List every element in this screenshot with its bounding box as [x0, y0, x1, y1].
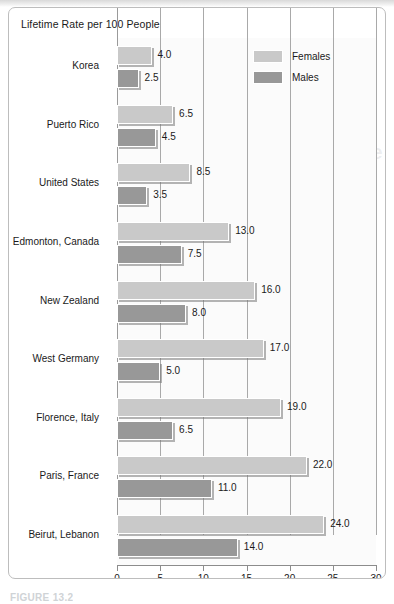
category-label-0: Korea — [72, 60, 99, 71]
x-tick-label-15: 15 — [241, 573, 252, 579]
chart-figure-frame: linical and Developm an Kids “Catch” Dep… — [8, 7, 386, 579]
category-label-3: Edmonton, Canada — [13, 236, 99, 247]
figure-caption: FIGURE 13.2 — [10, 592, 73, 604]
figure-page: linical and Developm an Kids “Catch” Dep… — [0, 0, 394, 604]
page-top-bleed — [0, 0, 394, 7]
category-label-8: Beirut, Lebanon — [28, 529, 99, 540]
category-label-6: Florence, Italy — [36, 412, 99, 423]
bar-males-5[interactable] — [117, 362, 160, 381]
bar-females-7[interactable] — [117, 456, 307, 475]
x-tick-10 — [203, 566, 204, 571]
bar-males-1[interactable] — [117, 128, 156, 147]
legend-label-females: Females — [292, 51, 330, 62]
bar-value-males-7: 11.0 — [218, 482, 237, 493]
category-label-4: New Zealand — [40, 295, 99, 306]
bar-value-females-5: 17.0 — [270, 342, 289, 353]
x-tick-label-25: 25 — [327, 573, 338, 579]
bar-value-females-8: 24.0 — [330, 518, 349, 529]
x-tick-label-20: 20 — [284, 573, 295, 579]
bar-females-5[interactable] — [117, 339, 264, 358]
bar-females-6[interactable] — [117, 398, 281, 417]
x-tick-30 — [376, 566, 377, 571]
legend-item-males[interactable]: Males — [253, 69, 330, 86]
bar-value-females-7: 22.0 — [313, 459, 332, 470]
gridline-30 — [376, 8, 377, 535]
bar-value-males-6: 6.5 — [179, 424, 193, 435]
category-label-1: Puerto Rico — [47, 119, 99, 130]
bar-value-males-1: 4.5 — [162, 131, 176, 142]
x-axis-line — [117, 565, 377, 566]
x-tick-25 — [333, 566, 334, 571]
x-tick-label-30: 30 — [370, 573, 381, 579]
legend-item-females[interactable]: Females — [253, 48, 330, 65]
bar-value-females-1: 6.5 — [179, 108, 193, 119]
x-tick-label-0: 0 — [114, 573, 120, 579]
chart-title: Lifetime Rate per 100 People — [21, 18, 160, 30]
x-tick-label-5: 5 — [157, 573, 163, 579]
legend-swatch-males-icon — [253, 71, 283, 84]
legend-swatch-females-icon — [253, 50, 283, 63]
bar-value-males-2: 3.5 — [153, 189, 167, 200]
bar-females-0[interactable] — [117, 46, 152, 65]
bar-females-2[interactable] — [117, 163, 190, 182]
category-label-2: United States — [39, 177, 99, 188]
gridline-25 — [333, 8, 334, 535]
bar-value-males-5: 5.0 — [166, 365, 180, 376]
bar-males-4[interactable] — [117, 304, 186, 323]
bar-males-6[interactable] — [117, 421, 173, 440]
x-tick-label-10: 10 — [198, 573, 209, 579]
bar-value-males-8: 14.0 — [244, 541, 263, 552]
bar-value-females-6: 19.0 — [287, 401, 306, 412]
chart-legend: Females Males — [253, 48, 330, 90]
bar-value-females-0: 4.0 — [158, 49, 172, 60]
x-tick-5 — [160, 566, 161, 571]
bar-value-males-4: 8.0 — [192, 307, 206, 318]
bar-males-2[interactable] — [117, 186, 147, 205]
bar-males-3[interactable] — [117, 245, 182, 264]
bar-value-females-3: 13.0 — [235, 225, 254, 236]
bar-females-1[interactable] — [117, 105, 173, 124]
x-tick-0 — [117, 566, 118, 571]
legend-label-males: Males — [292, 72, 319, 83]
bar-males-8[interactable] — [117, 538, 238, 557]
bar-females-8[interactable] — [117, 515, 324, 534]
bar-males-7[interactable] — [117, 479, 212, 498]
bar-males-0[interactable] — [117, 69, 139, 88]
bar-females-3[interactable] — [117, 222, 229, 241]
bar-value-males-3: 7.5 — [188, 248, 202, 259]
bar-value-males-0: 2.5 — [145, 72, 159, 83]
bar-value-females-2: 8.5 — [196, 166, 210, 177]
x-tick-15 — [247, 566, 248, 571]
bar-value-females-4: 16.0 — [261, 284, 280, 295]
bar-females-4[interactable] — [117, 281, 255, 300]
category-label-7: Paris, France — [40, 470, 99, 481]
x-tick-20 — [290, 566, 291, 571]
category-label-5: West Germany — [33, 353, 100, 364]
